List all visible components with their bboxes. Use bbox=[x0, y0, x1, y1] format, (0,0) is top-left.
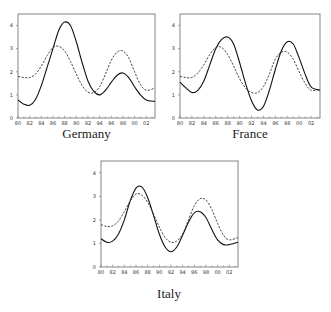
x-tick-label: 92 bbox=[168, 269, 174, 275]
y-tick-label: 1 bbox=[93, 240, 96, 246]
y-tick-label: 4 bbox=[93, 170, 96, 176]
x-tick-label: 82 bbox=[109, 269, 115, 275]
y-tick-label: 3 bbox=[93, 193, 96, 199]
x-tick-label: 02 bbox=[226, 269, 232, 275]
x-tick-label: 96 bbox=[191, 269, 197, 275]
x-tick-label: 90 bbox=[156, 269, 162, 275]
italy-chart: 01234808284868890929496980002 bbox=[0, 0, 331, 312]
italy-plot: 01234808284868890929496980002 bbox=[0, 0, 331, 312]
x-tick-label: 84 bbox=[121, 269, 127, 275]
x-tick-label: 80 bbox=[98, 269, 104, 275]
x-tick-label: 94 bbox=[179, 269, 185, 275]
y-tick-label: 2 bbox=[93, 217, 96, 223]
x-tick-label: 86 bbox=[133, 269, 139, 275]
y-tick-label: 0 bbox=[93, 264, 96, 270]
italy-caption: Italy bbox=[100, 286, 238, 302]
dashed-series-line bbox=[101, 194, 238, 243]
x-tick-label: 98 bbox=[203, 269, 209, 275]
x-tick-label: 00 bbox=[214, 269, 220, 275]
x-tick-label: 88 bbox=[144, 269, 150, 275]
